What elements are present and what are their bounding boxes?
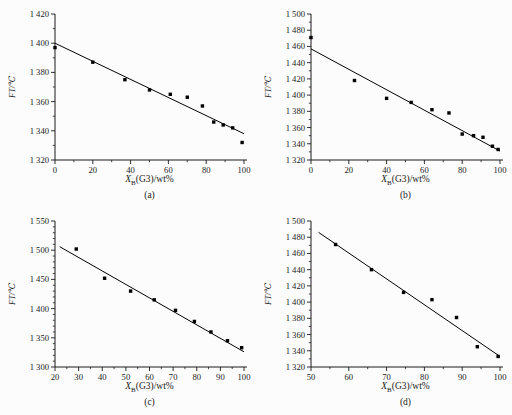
y-tick-label: 1 400 [286,297,305,307]
data-point [174,309,177,312]
data-point [169,93,172,96]
x-axis-units: (G3)/wt% [392,174,430,184]
x-axis-units: (G3)/wt% [136,174,174,184]
data-point [148,88,151,91]
data-point [240,346,243,349]
panel-b: 1 3201 3401 3601 3801 4001 4201 4401 460… [256,0,512,207]
y-tick-label: 1 500 [30,245,49,255]
figure-ft-vs-xb: 1 3201 3401 3601 3801 4001 4200204060801… [0,0,512,415]
y-axis-label: FT/℃ [7,283,17,306]
data-point [75,247,78,250]
data-point [481,136,484,139]
panel-d-chart: 1 3201 3401 3601 3801 4001 4201 4401 460… [256,207,512,385]
y-tick-label: 1 460 [286,248,305,258]
y-tick-label: 1 460 [286,41,305,51]
y-tick-label: 1 380 [30,67,49,77]
y-tick-label: 1 350 [30,333,49,343]
data-point [430,108,433,111]
data-point [226,339,229,342]
y-tick-label: 1 340 [286,139,305,149]
y-tick-label: 1 500 [286,9,305,19]
data-point [309,36,312,39]
data-point [231,126,234,129]
panel-caption: (a) [55,188,244,202]
data-point [123,78,126,81]
panel-caption: (c) [55,395,244,409]
panel-a-chart: 1 3201 3401 3601 3801 4001 4200204060801… [0,0,256,178]
data-point [129,289,132,292]
data-point [472,134,475,137]
y-tick-label: 1 440 [286,265,305,275]
y-tick-label: 1 360 [30,97,49,107]
y-tick-label: 1 480 [286,25,305,35]
y-tick-label: 1 340 [286,346,305,356]
y-tick-label: 1 320 [30,155,49,165]
y-tick-label: 1 320 [286,155,305,165]
data-point [447,111,450,114]
y-tick-label: 1 400 [286,90,305,100]
data-point [222,123,225,126]
y-tick-label: 1 450 [30,274,49,284]
y-axis-label: FT/℃ [263,283,273,306]
data-point [201,104,204,107]
x-axis-label: XB(G3)/wt% [311,379,500,393]
data-point [402,291,405,294]
data-point [496,355,499,358]
data-point [476,345,479,348]
y-tick-label: 1 360 [286,330,305,340]
y-tick-label: 1 340 [30,126,49,136]
x-axis-units: (G3)/wt% [136,381,174,391]
y-tick-label: 1 400 [30,304,49,314]
data-point [496,148,499,151]
fit-line [60,247,244,352]
data-point [186,96,189,99]
y-tick-label: 1 380 [286,313,305,323]
y-tick-label: 1 360 [286,123,305,133]
data-point [212,120,215,123]
y-tick-label: 1 440 [286,58,305,68]
data-point [353,79,356,82]
y-tick-label: 1 420 [286,74,305,84]
y-axis-label: FT/℃ [263,76,273,99]
y-tick-label: 1 300 [30,362,49,372]
y-tick-label: 1 480 [286,232,305,242]
x-axis-label: XB(G3)/wt% [311,172,500,186]
panel-caption: (d) [311,395,500,409]
data-point [209,330,212,333]
data-point [430,298,433,301]
y-tick-label: 1 500 [286,216,305,226]
data-point [334,243,337,246]
data-point [153,298,156,301]
panel-b-chart: 1 3201 3401 3601 3801 4001 4201 4401 460… [256,0,512,178]
data-point [193,320,196,323]
data-point [240,141,243,144]
data-point [461,132,464,135]
y-tick-label: 1 320 [286,362,305,372]
data-point [53,46,56,49]
y-tick-label: 1 550 [30,216,49,226]
y-tick-label: 1 400 [30,38,49,48]
data-point [455,316,458,319]
y-tick-label: 1 380 [286,106,305,116]
fit-line [311,49,500,151]
data-point [370,268,373,271]
x-axis-units: (G3)/wt% [392,381,430,391]
fit-line [319,232,500,356]
data-point [91,60,94,63]
data-point [103,277,106,280]
panel-c-chart: 1 3001 3501 4001 4501 5001 5502030405060… [0,207,256,385]
y-tick-label: 1 420 [30,9,49,19]
y-axis-label: FT/℃ [7,76,17,99]
y-tick-label: 1 420 [286,281,305,291]
panel-caption: (b) [311,188,500,202]
x-axis-label: XB(G3)/wt% [55,379,244,393]
data-point [385,97,388,100]
panel-a: 1 3201 3401 3601 3801 4001 4200204060801… [0,0,256,207]
data-point [491,145,494,148]
data-point [409,101,412,104]
panel-d: 1 3201 3401 3601 3801 4001 4201 4401 460… [256,207,512,414]
x-axis-label: XB(G3)/wt% [55,172,244,186]
panel-c: 1 3001 3501 4001 4501 5001 5502030405060… [0,207,256,414]
